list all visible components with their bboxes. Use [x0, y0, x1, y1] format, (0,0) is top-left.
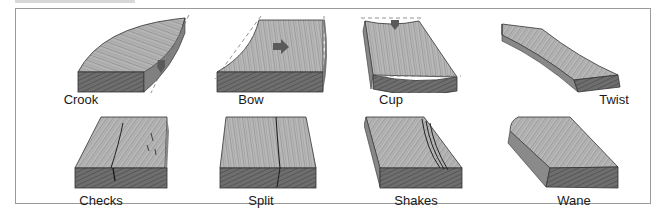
bow-board-icon [211, 13, 371, 93]
defect-shakes: Shakes [364, 113, 524, 211]
defect-label: Shakes [366, 193, 466, 208]
defect-split: Split [216, 113, 376, 211]
checks-board-icon [61, 113, 221, 193]
crook-board-icon [61, 13, 221, 93]
defect-label: Wane [524, 193, 624, 208]
defect-label: Split [211, 193, 311, 208]
shakes-board-icon [364, 113, 524, 193]
split-board-icon [216, 113, 376, 193]
defect-label: Crook [31, 92, 131, 107]
defect-label: Cup [341, 92, 441, 107]
defect-label: Checks [51, 193, 151, 208]
defect-checks: Checks [61, 113, 221, 211]
defect-label: Bow [201, 92, 301, 107]
defect-twist: Twist [494, 13, 654, 111]
caption-fragment [15, 0, 135, 3]
wane-board-icon [506, 113, 663, 193]
defect-label: Twist [564, 92, 663, 107]
defect-crook: Crook [61, 13, 221, 111]
twist-board-icon [494, 13, 654, 93]
lumber-defects-figure: Crook Bow Cup Twist [15, 8, 651, 204]
defect-wane: Wane [506, 113, 663, 211]
